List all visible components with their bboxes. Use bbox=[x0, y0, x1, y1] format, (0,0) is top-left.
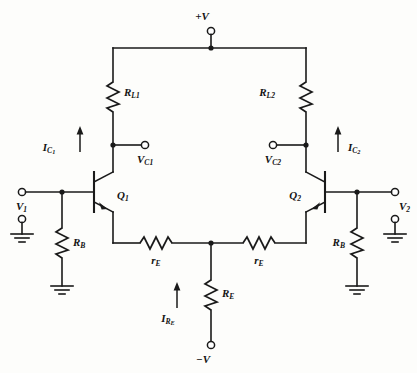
terminal-v1[interactable] bbox=[18, 188, 25, 195]
emitter-rail-group bbox=[113, 237, 306, 249]
label-vc2: VC2 bbox=[265, 153, 281, 167]
transistor-q1-group bbox=[62, 171, 113, 243]
label-plus-v: +V bbox=[195, 10, 210, 22]
label-ic1: IC1 bbox=[42, 141, 55, 155]
label-q1: Q1 bbox=[117, 189, 129, 203]
arrow-ic1-head bbox=[77, 126, 84, 135]
ground-symbol-rb-right bbox=[346, 286, 368, 294]
q2-collector-lead bbox=[306, 172, 325, 182]
terminal-minus-v[interactable] bbox=[207, 341, 214, 348]
label-minus-v: −V bbox=[196, 353, 212, 365]
ground-symbol-v1 bbox=[11, 234, 33, 242]
resistor-re-left-symbol bbox=[140, 237, 172, 249]
circuit-diagram: +V −V RL1 RL2 RB RB rE rE RE Q1 Q2 V1 V2… bbox=[0, 0, 417, 373]
resistor-rb-left-symbol bbox=[56, 228, 68, 258]
schematic-canvas: +V −V RL1 RL2 RB RB rE rE RE Q1 Q2 V1 V2… bbox=[0, 0, 417, 373]
label-v1: V1 bbox=[16, 200, 27, 214]
label-v2: V2 bbox=[399, 200, 410, 214]
resistor-re-tail-symbol bbox=[205, 280, 217, 310]
resistor-rl1-group bbox=[107, 82, 119, 145]
terminal-v2[interactable] bbox=[391, 188, 398, 195]
label-rl2: RL2 bbox=[258, 86, 275, 100]
label-re-left: rE bbox=[151, 254, 160, 268]
supply-positive-group bbox=[113, 27, 306, 82]
terminal-vc1[interactable] bbox=[141, 141, 148, 148]
arrow-ire-head bbox=[174, 282, 181, 291]
label-re-right: rE bbox=[254, 254, 263, 268]
transistor-q2-group bbox=[306, 171, 357, 243]
ground-symbol-v2 bbox=[384, 234, 406, 242]
terminal-v2-ground[interactable] bbox=[391, 215, 398, 222]
arrow-ic2-head bbox=[335, 126, 342, 135]
current-arrow-ic2-group bbox=[335, 126, 342, 152]
resistor-re-right-symbol bbox=[243, 237, 275, 249]
label-q2: Q2 bbox=[289, 189, 301, 203]
label-ic2: IC2 bbox=[347, 141, 360, 155]
label-rb-left: RB bbox=[72, 236, 85, 250]
vc2-node-group bbox=[269, 141, 308, 172]
ground-symbol-rb-left bbox=[51, 286, 73, 294]
terminal-vc2[interactable] bbox=[269, 141, 276, 148]
current-arrow-ic1-group bbox=[77, 126, 84, 152]
label-rb-right: RB bbox=[332, 236, 345, 250]
resistor-rb-right-symbol bbox=[351, 228, 363, 258]
input-v2-group bbox=[346, 188, 406, 294]
q1-collector-lead bbox=[94, 172, 113, 182]
resistor-rl2-symbol bbox=[300, 82, 312, 112]
terminal-v1-ground[interactable] bbox=[18, 215, 25, 222]
resistor-rl1-symbol bbox=[107, 82, 119, 112]
label-vc1: VC1 bbox=[137, 153, 153, 167]
current-arrow-ire-group bbox=[174, 282, 181, 308]
label-ire: IRE bbox=[160, 312, 175, 327]
resistor-rl2-group bbox=[300, 82, 312, 145]
terminal-plus-v[interactable] bbox=[207, 27, 214, 34]
tail-resistor-group bbox=[205, 243, 217, 349]
label-re-tail: RE bbox=[221, 287, 234, 301]
label-rl1: RL1 bbox=[123, 86, 140, 100]
